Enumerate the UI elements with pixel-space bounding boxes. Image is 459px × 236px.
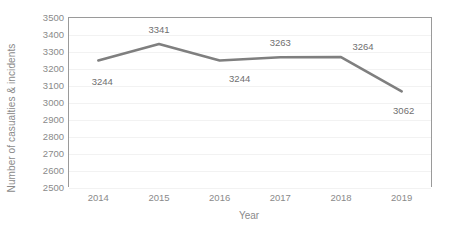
- data-label: 3244: [229, 72, 250, 83]
- x-axis-title: Year: [66, 210, 432, 221]
- gridline: [69, 188, 431, 189]
- x-tick-label: 2016: [209, 192, 230, 203]
- y-tick-label: 3200: [30, 63, 64, 74]
- data-label: 3341: [148, 24, 169, 35]
- data-label: 3244: [92, 75, 113, 86]
- x-tick-label: 2014: [88, 192, 109, 203]
- y-tick-label: 3500: [30, 12, 64, 23]
- data-label: 3062: [393, 105, 414, 116]
- y-axis-title: Number of casualties & incidents: [0, 0, 22, 236]
- x-axis-tick-labels: 201420152016201720182019: [68, 192, 432, 208]
- y-tick-label: 2800: [30, 131, 64, 142]
- y-tick-label: 2600: [30, 165, 64, 176]
- y-tick-label: 3100: [30, 80, 64, 91]
- y-axis-tick-labels: 3500340033003200310030002900280027002600…: [30, 17, 64, 187]
- y-tick-label: 2900: [30, 114, 64, 125]
- y-tick-label: 2700: [30, 148, 64, 159]
- y-tick-label: 3400: [30, 29, 64, 40]
- x-tick-label: 2018: [330, 192, 351, 203]
- x-tick-label: 2015: [148, 192, 169, 203]
- data-label: 3263: [270, 37, 291, 48]
- y-tick-label: 2500: [30, 182, 64, 193]
- x-tick-label: 2017: [270, 192, 291, 203]
- data-point-labels: 324433413244326332643062: [68, 17, 432, 187]
- x-tick-label: 2019: [391, 192, 412, 203]
- y-tick-label: 3300: [30, 46, 64, 57]
- line-chart: Number of casualties & incidents 3500340…: [0, 0, 459, 236]
- data-label: 3264: [352, 41, 373, 52]
- y-tick-label: 3000: [30, 97, 64, 108]
